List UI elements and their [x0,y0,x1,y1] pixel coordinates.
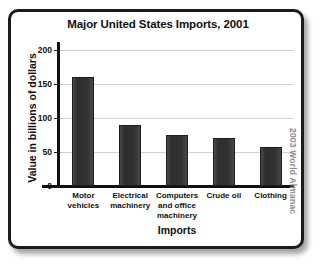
x-axis-title: Imports [60,224,294,236]
x-axis-category-label: Clothing [243,191,298,201]
y-axis-tick [54,118,60,119]
bar [260,147,282,186]
y-axis-tick [54,152,60,153]
plot-area [60,44,294,186]
bar [119,125,141,186]
x-axis-category-label-line: and office [150,201,205,211]
y-axis-tick-label: 100 [22,113,52,123]
y-axis-tick-label: 50 [22,147,52,157]
y-axis-tick [54,50,60,51]
bar [166,135,188,186]
gridline [60,50,294,51]
x-axis-category-label-line: Clothing [243,191,298,201]
bar [72,77,94,186]
chart-title: Major United States Imports, 2001 [20,18,296,30]
gridline [60,84,294,85]
y-axis-tick [54,186,60,187]
y-axis-tick-labels: 050100150200 [18,0,52,266]
chart-figure: Major United States Imports, 2001 Value … [0,0,335,266]
y-axis-tick-label: 150 [22,79,52,89]
y-axis-tick-label: 200 [22,45,52,55]
gridline [60,118,294,119]
source-credit: 2003 World Almanac [288,128,298,248]
y-axis-tick [54,84,60,85]
bar [213,138,235,186]
x-axis-category-label-line: machinery [150,211,205,221]
